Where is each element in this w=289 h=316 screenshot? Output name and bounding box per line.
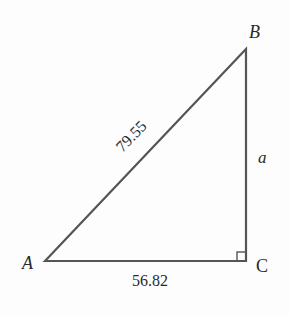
side-label-base: 56.82 [132, 272, 168, 289]
right-angle-marker [237, 252, 246, 261]
vertex-label-c: C [256, 256, 268, 276]
side-label-vertical: a [258, 148, 267, 167]
triangle-svg: B A C 79.55 56.82 a [0, 0, 289, 316]
triangle-shape [45, 49, 246, 261]
vertex-label-a: A [21, 253, 34, 273]
side-label-hypotenuse: 79.55 [112, 117, 149, 155]
vertex-label-b: B [249, 22, 260, 42]
triangle-diagram: B A C 79.55 56.82 a [0, 0, 289, 316]
